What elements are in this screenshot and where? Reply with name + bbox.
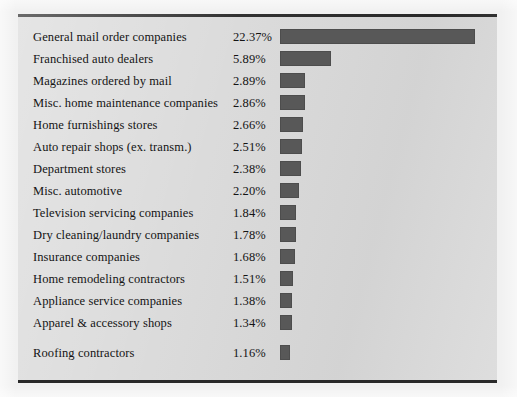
bar (280, 139, 302, 154)
category-label: Insurance companies (33, 250, 233, 265)
bar-row: Television servicing companies1.84% (18, 202, 497, 224)
bar-row: Apparel & accessory shops1.34% (18, 312, 497, 334)
category-label: Apparel & accessory shops (33, 316, 233, 331)
bar-row: Misc. home maintenance companies2.86% (18, 92, 497, 114)
bar (280, 73, 305, 88)
category-label: Roofing contractors (33, 346, 233, 361)
bar-row: Home remodeling contractors1.51% (18, 268, 497, 290)
bar (280, 51, 331, 66)
bar-track (280, 249, 491, 264)
category-label: Appliance service companies (33, 294, 233, 309)
bar (280, 205, 296, 220)
bar-track (280, 345, 491, 360)
bar-track (280, 117, 491, 132)
bar-row: Magazines ordered by mail2.89% (18, 70, 497, 92)
chart-panel: General mail order companies22.37%Franch… (18, 14, 497, 383)
bar (280, 29, 475, 44)
bar-row: Insurance companies1.68% (18, 246, 497, 268)
bar-track (280, 95, 491, 110)
bar (280, 293, 292, 308)
category-label: Magazines ordered by mail (33, 74, 233, 89)
bar (280, 345, 290, 360)
category-label: Home remodeling contractors (33, 272, 233, 287)
category-label: Misc. automotive (33, 184, 233, 199)
bar-track (280, 139, 491, 154)
bar-row: Franchised auto dealers5.89% (18, 48, 497, 70)
bar-row: General mail order companies22.37% (18, 26, 497, 48)
bar (280, 249, 295, 264)
bar-track (280, 205, 491, 220)
bar-track (280, 227, 491, 242)
bar-row: Appliance service companies1.38% (18, 290, 497, 312)
category-label: Auto repair shops (ex. transm.) (33, 140, 233, 155)
bar-track (280, 161, 491, 176)
bar-row: Roofing contractors1.16% (18, 342, 497, 364)
bar (280, 161, 301, 176)
bar-track (280, 271, 491, 286)
bar (280, 315, 292, 330)
bar-track (280, 73, 491, 88)
category-label: Home furnishings stores (33, 118, 233, 133)
bar-track (280, 29, 491, 44)
category-label: Misc. home maintenance companies (33, 96, 233, 111)
bar (280, 95, 305, 110)
bar-row: Home furnishings stores2.66% (18, 114, 497, 136)
category-label: Franchised auto dealers (33, 52, 233, 67)
bar-chart-rows: General mail order companies22.37%Franch… (18, 26, 497, 375)
bar-track (280, 51, 491, 66)
bar-row: Dry cleaning/laundry companies1.78% (18, 224, 497, 246)
bar-track (280, 315, 491, 330)
bar (280, 271, 293, 286)
category-label: Television servicing companies (33, 206, 233, 221)
category-label: Department stores (33, 162, 233, 177)
bar (280, 227, 296, 242)
category-label: Dry cleaning/laundry companies (33, 228, 233, 243)
bar-track (280, 183, 491, 198)
bar-row: Department stores2.38% (18, 158, 497, 180)
bar-row: Misc. automotive2.20% (18, 180, 497, 202)
bar-row: Auto repair shops (ex. transm.)2.51% (18, 136, 497, 158)
bar (280, 117, 303, 132)
bar-track (280, 293, 491, 308)
bar (280, 183, 299, 198)
category-label: General mail order companies (33, 30, 233, 45)
